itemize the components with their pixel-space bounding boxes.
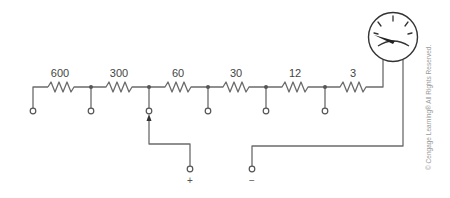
resistor-600 [48,82,91,92]
junction-dot [264,85,268,89]
left-end-wire [33,87,48,108]
junction-dot [89,85,93,89]
resistor-label-600: 600 [51,67,69,79]
junction-dot [323,85,327,89]
copyright-notice: © Cengage Learning® All Rights Reserved. [425,45,433,170]
junction-dot [206,85,210,89]
resistor-30 [208,82,266,92]
positive-terminal[interactable] [187,166,193,172]
negative-label: − [249,175,255,186]
range-terminal[interactable] [322,108,328,114]
range-terminal[interactable] [146,108,152,114]
range-terminal[interactable] [88,108,94,114]
resistor-60 [149,82,208,92]
resistor-label-3: 3 [350,67,356,79]
junction-dot [147,85,151,89]
range-terminal[interactable] [263,108,269,114]
circuit-diagram: 600 300 60 30 12 3 + − © Cengage Learnin… [0,0,450,198]
range-terminal[interactable] [205,108,211,114]
resistor-label-300: 300 [110,67,128,79]
positive-selector-lead [149,119,190,166]
resistor-12 [266,82,325,92]
range-terminal[interactable] [30,108,36,114]
negative-terminal[interactable] [249,166,255,172]
selector-arrow-icon [147,114,152,121]
positive-label: + [187,175,193,186]
resistor-label-12: 12 [289,67,301,79]
resistor-300 [91,82,149,92]
analog-meter-icon [369,13,418,62]
resistor-label-30: 30 [230,67,242,79]
resistor-label-60: 60 [172,67,184,79]
